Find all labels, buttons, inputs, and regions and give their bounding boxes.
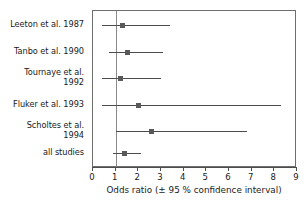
x-axis-tick bbox=[251, 167, 252, 171]
odds-ratio-marker bbox=[122, 151, 127, 156]
x-axis-tick-label: 9 bbox=[293, 172, 298, 182]
x-axis-tick-label: 3 bbox=[157, 172, 162, 182]
x-axis-tick-label: 5 bbox=[203, 172, 208, 182]
study-label: Tournaye et al. 1992 bbox=[24, 68, 84, 87]
x-axis-tick-label: 2 bbox=[135, 172, 140, 182]
x-axis-tick bbox=[296, 167, 297, 171]
study-label: Leeton et al. 1987 bbox=[10, 20, 84, 30]
x-axis: 0123456789 bbox=[92, 167, 296, 168]
x-axis-tick bbox=[183, 167, 184, 171]
x-axis-tick bbox=[160, 167, 161, 171]
x-axis-tick bbox=[228, 167, 229, 171]
odds-ratio-marker bbox=[120, 23, 125, 28]
forest-plot-figure: Leeton et al. 1987 Tanbo et al. 1990 Tou… bbox=[0, 0, 308, 204]
x-axis-tick bbox=[115, 167, 116, 171]
odds-ratio-marker bbox=[136, 103, 141, 108]
confidence-interval-line bbox=[116, 131, 247, 132]
confidence-interval-line bbox=[102, 105, 281, 106]
confidence-interval-line bbox=[109, 52, 163, 53]
x-axis-tick bbox=[92, 167, 93, 171]
confidence-interval-line bbox=[102, 25, 170, 26]
x-axis-tick-label: 8 bbox=[271, 172, 276, 182]
x-axis-title: Odds ratio (± 95 % confidence interval) bbox=[92, 185, 296, 196]
odds-ratio-marker bbox=[118, 76, 123, 81]
study-label: Scholtes et al. 1994 bbox=[27, 121, 84, 140]
x-axis-tick-label: 7 bbox=[248, 172, 253, 182]
x-axis-tick-label: 1 bbox=[112, 172, 117, 182]
confidence-interval-line bbox=[102, 78, 161, 79]
odds-ratio-marker bbox=[125, 50, 130, 55]
reference-line-or-1 bbox=[116, 11, 117, 166]
x-axis-tick bbox=[137, 167, 138, 171]
study-label: all studies bbox=[43, 148, 84, 158]
x-axis-tick-label: 6 bbox=[225, 172, 230, 182]
x-axis-tick-label: 0 bbox=[89, 172, 94, 182]
study-label: Tanbo et al. 1990 bbox=[14, 47, 84, 57]
x-axis-tick-label: 4 bbox=[180, 172, 185, 182]
study-label-column: Leeton et al. 1987 Tanbo et al. 1990 Tou… bbox=[0, 10, 88, 167]
x-axis-tick bbox=[205, 167, 206, 171]
study-label: Fluker et al. 1993 bbox=[13, 100, 84, 110]
odds-ratio-marker bbox=[149, 129, 154, 134]
x-axis-tick bbox=[273, 167, 274, 171]
plot-area bbox=[92, 10, 296, 167]
